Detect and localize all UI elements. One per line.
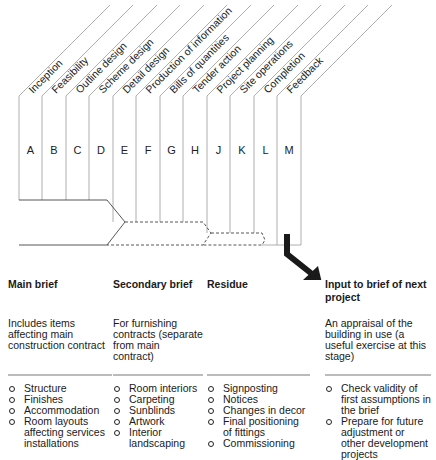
bullet-icon: [208, 441, 214, 447]
bullet-icon: [9, 386, 15, 392]
list-item: Final positioning of fittings: [207, 416, 310, 438]
column-secondary-brief: Secondary brief For furnishing contracts…: [113, 278, 203, 449]
bullet-icon: [114, 386, 120, 392]
column-residue: Residue SignpostingNoticesChanges in dec…: [207, 278, 310, 449]
list-item-text: Check validity of first assumptions in t…: [341, 382, 431, 416]
list-item: Check validity of first assumptions in t…: [325, 383, 431, 416]
item-list: Check validity of first assumptions in t…: [325, 383, 431, 460]
stage-letter: K: [238, 144, 246, 156]
divider: [113, 374, 203, 376]
item-list: StructureFinishesAccommodationRoom layou…: [8, 383, 112, 449]
bullet-icon: [114, 408, 120, 414]
bullet-icon: [9, 408, 15, 414]
stage-divider-line: [113, 5, 204, 222]
divider: [325, 374, 431, 376]
bullet-icon: [9, 397, 15, 403]
list-item-text: Final positioning of fittings: [223, 415, 299, 438]
stage-labels: InceptionFeasibilityOutline designScheme…: [26, 4, 326, 95]
bullet-icon: [208, 419, 214, 425]
column-description: [207, 318, 310, 374]
column-description: Includes items affecting main constructi…: [8, 318, 112, 374]
stage-letter: H: [191, 144, 199, 156]
divider: [8, 374, 112, 376]
item-list: Room interiorsCarpetingSunblindsArtworkI…: [113, 383, 203, 449]
column-title: Main brief: [8, 278, 112, 318]
bullet-icon: [114, 430, 120, 436]
stage-divider-line: [230, 5, 321, 233]
stage-divider-line: [66, 5, 157, 200]
column-description: For furnishing contracts (separate from …: [113, 318, 203, 374]
list-item: Room layouts affecting services installa…: [8, 416, 112, 449]
stage-divider-line: [19, 5, 110, 200]
bullet-icon: [208, 408, 214, 414]
list-item: Commissioning: [207, 438, 310, 449]
stage-divider-line: [136, 5, 227, 222]
plan-of-work-diagram: InceptionFeasibilityOutline designScheme…: [0, 0, 436, 280]
bullet-icon: [9, 419, 15, 425]
column-main-brief: Main brief Includes items affecting main…: [8, 278, 112, 449]
stage-letter: B: [50, 144, 57, 156]
divider: [207, 374, 310, 376]
list-item: Interior landscaping: [113, 427, 203, 449]
bullet-icon: [208, 386, 214, 392]
bullet-icon: [326, 419, 332, 425]
list-item-text: Prepare for future adjustment or other d…: [341, 415, 428, 460]
stage-letter: L: [262, 144, 268, 156]
stage-letter: M: [284, 144, 293, 156]
stage-letter: C: [74, 144, 82, 156]
list-item-text: Interior landscaping: [129, 426, 185, 449]
stage-divider-line: [277, 5, 368, 245]
stage-divider-line: [301, 5, 392, 245]
list-item: Prepare for future adjustment or other d…: [325, 416, 431, 460]
bullet-icon: [114, 419, 120, 425]
feedback-arrow-icon: [287, 234, 322, 280]
bullet-icon: [208, 397, 214, 403]
bullet-icon: [114, 397, 120, 403]
column-title: Input to brief of next project: [325, 278, 431, 318]
column-description: An appraisal of the building in use (a u…: [325, 318, 431, 374]
stage-divider-line: [42, 5, 133, 200]
column-input-next-project: Input to brief of next project An apprai…: [325, 278, 431, 460]
main-brief-band: [19, 200, 125, 245]
stage-letter: J: [216, 144, 222, 156]
list-item-text: Commissioning: [223, 437, 295, 449]
column-title: Secondary brief: [113, 278, 203, 318]
stage-letter: G: [167, 144, 176, 156]
stage-divider-line: [89, 5, 180, 200]
bullet-icon: [326, 386, 332, 392]
list-item-text: Room layouts affecting services installa…: [24, 415, 105, 449]
residue-band: [203, 233, 265, 245]
column-title: Residue: [207, 278, 310, 318]
stage-letter: E: [121, 144, 128, 156]
stage-letter: D: [97, 144, 105, 156]
stage-letter: F: [145, 144, 152, 156]
item-list: SignpostingNoticesChanges in decorFinal …: [207, 383, 310, 449]
stage-letter: A: [27, 144, 35, 156]
